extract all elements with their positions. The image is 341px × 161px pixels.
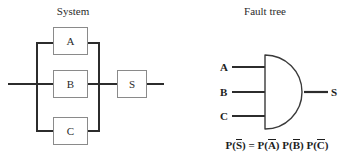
system-left-bus	[36, 42, 38, 132]
system-output-line	[146, 83, 164, 85]
formula-term-c-fn: P(	[306, 139, 316, 151]
formula-term-a-var: A	[268, 139, 276, 152]
fault-tree-input-label-c: C	[220, 110, 228, 122]
formula-term-a-fn: P(	[258, 139, 268, 151]
system-panel-title: System	[40, 5, 106, 17]
system-block-s-label: S	[129, 78, 135, 90]
formula-term-b-fn: P(	[282, 139, 292, 151]
system-block-c[interactable]: C	[53, 117, 88, 145]
system-block-b-label: B	[67, 78, 74, 90]
probability-formula: P(S) = P(A) P(B) P(C)	[213, 139, 341, 152]
fault-tree-output-label-s: S	[331, 86, 337, 98]
formula-equals: =	[248, 139, 254, 151]
system-block-s[interactable]: S	[117, 70, 147, 98]
fault-tree-panel-title: Fault tree	[226, 5, 304, 17]
system-block-a[interactable]: A	[53, 27, 88, 55]
system-series-link-line	[98, 83, 118, 85]
system-right-bus	[98, 42, 100, 132]
system-input-line	[8, 83, 38, 85]
diagram-canvas: System A B C S Fault tree A B C	[0, 0, 341, 161]
formula-lhs-close: )	[242, 139, 246, 151]
formula-lhs-fn: P(	[226, 139, 236, 151]
system-block-c-label: C	[67, 125, 74, 137]
and-gate-icon[interactable]	[230, 50, 341, 135]
fault-tree-input-label-a: A	[220, 61, 228, 73]
formula-term-b-close: )	[300, 139, 304, 151]
system-block-b[interactable]: B	[53, 70, 88, 98]
formula-term-b-var: B	[293, 139, 300, 152]
fault-tree-input-label-b: B	[220, 86, 227, 98]
formula-term-a-close: )	[276, 139, 280, 151]
formula-term-c-close: )	[325, 139, 329, 151]
system-block-a-label: A	[67, 35, 75, 47]
formula-term-c-var: C	[317, 139, 325, 152]
